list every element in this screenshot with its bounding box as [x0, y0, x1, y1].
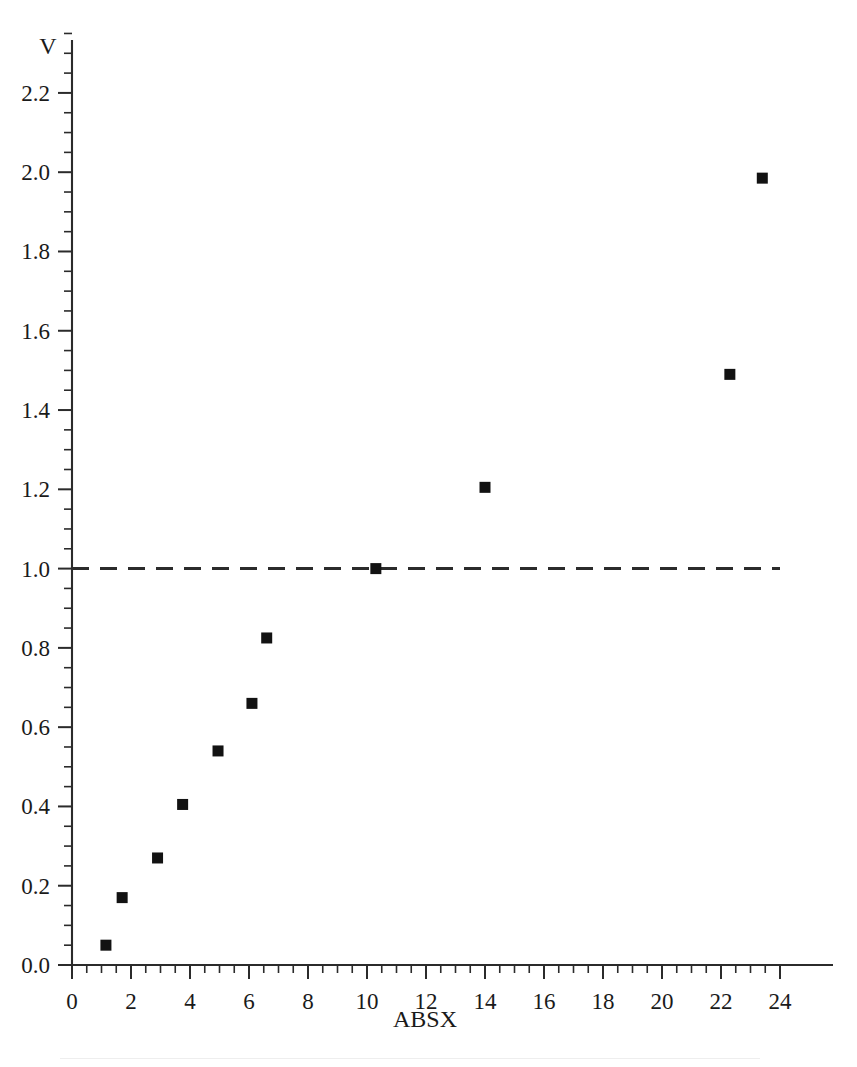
x-tick-label: 6 — [243, 989, 255, 1014]
y-tick-label: 1.6 — [21, 319, 50, 344]
axes-group — [58, 33, 833, 979]
tick-labels-group: 0.00.20.40.60.81.01.21.41.61.82.02.20246… — [21, 81, 792, 1014]
x-tick-label: 16 — [533, 989, 556, 1014]
y-tick-label: 1.2 — [21, 477, 50, 502]
data-point-marker — [117, 892, 128, 903]
y-tick-label: 2.0 — [21, 160, 50, 185]
x-tick-label: 20 — [651, 989, 674, 1014]
data-point-marker — [757, 173, 768, 184]
y-tick-label: 2.2 — [21, 81, 50, 106]
scan-artifact-group — [60, 1058, 760, 1059]
x-tick-label: 18 — [592, 989, 615, 1014]
y-tick-label: 1.4 — [21, 398, 50, 423]
data-point-marker — [370, 563, 381, 574]
y-axis-title: V — [39, 33, 57, 59]
y-tick-label: 0.4 — [21, 794, 50, 819]
x-tick-label: 4 — [184, 989, 196, 1014]
y-tick-label: 0.8 — [21, 636, 50, 661]
x-tick-label: 24 — [769, 989, 793, 1014]
y-tick-label: 0.2 — [21, 874, 50, 899]
x-axis-title: ABSX — [393, 1006, 457, 1032]
y-tick-label: 0.0 — [21, 953, 50, 978]
scatter-plot-figure: 0.00.20.40.60.81.01.21.41.61.82.02.20246… — [0, 0, 857, 1067]
data-point-marker — [246, 698, 257, 709]
data-point-marker — [261, 632, 272, 643]
x-tick-label: 8 — [302, 989, 314, 1014]
x-tick-label: 0 — [66, 989, 78, 1014]
x-tick-label: 22 — [710, 989, 733, 1014]
data-point-marker — [100, 940, 111, 951]
y-tick-label: 1.8 — [21, 239, 50, 264]
data-point-marker — [177, 799, 188, 810]
data-point-marker — [213, 745, 224, 756]
y-tick-label: 0.6 — [21, 715, 50, 740]
data-point-marker — [724, 369, 735, 380]
data-point-marker — [152, 852, 163, 863]
y-tick-label: 1.0 — [21, 557, 50, 582]
data-points-group — [100, 173, 767, 951]
plot-svg: 0.00.20.40.60.81.01.21.41.61.82.02.20246… — [0, 0, 857, 1067]
x-tick-label: 10 — [356, 989, 379, 1014]
x-tick-label: 2 — [125, 989, 137, 1014]
x-tick-label: 14 — [474, 989, 498, 1014]
data-point-marker — [480, 482, 491, 493]
